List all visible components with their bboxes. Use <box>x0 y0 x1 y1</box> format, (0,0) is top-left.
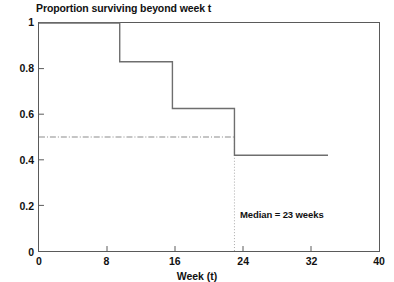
x-tick-label-32: 32 <box>306 256 318 267</box>
x-tick-label-0: 0 <box>36 256 42 267</box>
y-tick-label-0-6: 0.6 <box>19 109 34 120</box>
median-annotation: Median = 23 weeks <box>240 209 324 220</box>
x-tick-label-24: 24 <box>237 256 249 267</box>
y-tick-label-0-2: 0.2 <box>19 201 34 212</box>
y-tick-label-0-4: 0.4 <box>19 155 34 166</box>
y-tick-label-0-8: 0.8 <box>19 63 34 74</box>
chart-title: Proportion surviving beyond week t <box>36 2 211 14</box>
plot-area: Median = 23 weeks <box>38 22 380 252</box>
x-tick-label-40: 40 <box>373 256 385 267</box>
y-tick-label-1: 1 <box>28 17 34 28</box>
survival-step-curve <box>39 23 328 155</box>
x-axis-title: Week (t) <box>0 270 394 282</box>
y-axis-tick-labels: 1 0.8 0.6 0.4 0.2 0 <box>0 0 34 282</box>
x-axis-ticks <box>107 246 311 251</box>
plot-svg <box>39 23 379 251</box>
x-tick-label-8: 8 <box>103 256 109 267</box>
x-tick-label-16: 16 <box>169 256 181 267</box>
survival-chart: Proportion surviving beyond week t 1 0.8… <box>0 0 394 282</box>
